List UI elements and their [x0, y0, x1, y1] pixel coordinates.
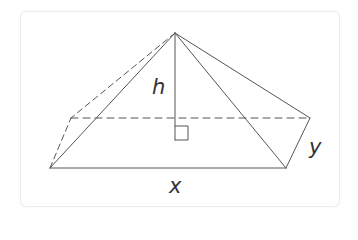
height-label: h — [152, 77, 165, 98]
edge-base-right — [286, 118, 310, 168]
right-angle-marker-icon — [175, 126, 188, 140]
edge-front-left-to-back-left — [50, 118, 71, 168]
edge-apex-to-front-right — [175, 33, 286, 168]
edge-apex-to-back-right — [175, 33, 310, 118]
edge-apex-to-front-left — [50, 33, 175, 168]
base-length-label: x — [169, 176, 181, 197]
base-width-label: y — [309, 137, 321, 158]
